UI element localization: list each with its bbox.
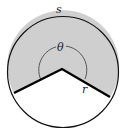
angle-label: θ: [57, 41, 64, 54]
sector-diagram: s θ r: [0, 0, 128, 133]
radius-label: r: [82, 83, 88, 96]
arc-length-label: s: [56, 3, 62, 16]
